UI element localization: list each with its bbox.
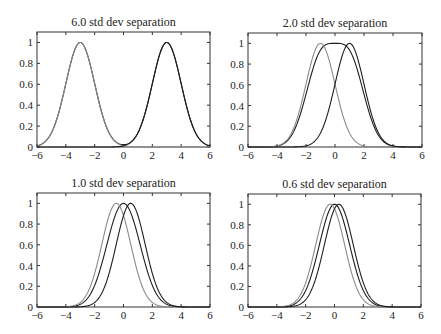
subplot-title: 2.0 std dev separation [283,16,388,30]
x-tick-label: 4 [389,309,395,321]
x-tick-label: −4 [271,309,283,321]
x-tick-label: −2 [300,149,312,161]
axes-frame [248,33,422,147]
x-tick-label: 2 [150,309,156,321]
x-tick-label: 2 [361,309,367,321]
gaussian-right-curve [248,204,421,307]
y-tick-label: 0.2 [19,120,33,132]
x-tick-label: 6 [207,309,213,321]
x-tick-label: −4 [60,309,72,321]
x-tick-label: −4 [271,149,283,161]
y-tick-label: 0.8 [19,218,33,230]
gaussian-left-curve [37,203,210,307]
axes-frame [37,32,210,147]
y-tick-label: 0.8 [19,57,33,69]
gaussian-right-curve [248,43,422,147]
subplot-1-0-separation: 1.0 std dev separation −6−4−2024600.20.4… [19,176,213,321]
y-tick-label: 0 [239,141,245,153]
x-tick-label: −4 [60,149,72,161]
y-tick-label: 0.6 [230,239,244,251]
y-tick-label: 0.6 [230,79,244,91]
y-tick-label: 1 [28,36,34,48]
x-tick-label: 4 [178,309,184,321]
subplot-2-0-separation: 2.0 std dev separation −6−4−2024600.20.4… [230,16,425,161]
y-tick-label: 1 [28,197,34,209]
x-tick-label: 6 [418,309,424,321]
y-tick-label: 0 [28,301,34,313]
normalized-sum-curve [248,204,421,307]
x-tick-label: 6 [207,149,213,161]
y-tick-label: 1 [239,37,245,49]
subplot-title: 6.0 std dev separation [71,15,176,29]
subplot-title: 0.6 std dev separation [282,177,387,191]
y-tick-label: 0.8 [230,219,244,231]
y-tick-label: 0.4 [230,260,244,272]
x-tick-label: 4 [178,149,184,161]
y-tick-label: 0.2 [230,120,244,132]
y-tick-label: 0.8 [230,58,244,70]
x-tick-label: 0 [121,309,127,321]
x-tick-label: −2 [300,309,312,321]
normalized-sum-curve [248,43,422,147]
y-tick-label: 0.4 [230,100,244,112]
subplot-title: 1.0 std dev separation [71,176,176,190]
y-tick-label: 0.4 [19,260,33,272]
x-tick-label: −2 [89,309,101,321]
subplot-0-6-separation: 0.6 std dev separation −6−4−2024600.20.4… [230,177,424,321]
y-tick-label: 0.6 [19,78,33,90]
x-tick-label: 0 [332,149,338,161]
x-tick-label: −2 [89,149,101,161]
y-tick-label: 0.2 [230,280,244,292]
y-tick-label: 0.2 [19,280,33,292]
gaussian-right-curve [37,203,210,307]
y-tick-label: 1 [239,198,245,210]
gaussian-left-curve [248,204,421,307]
y-tick-label: 0 [28,141,34,153]
x-tick-label: 0 [332,309,338,321]
x-tick-label: 2 [150,149,156,161]
normalized-sum-curve [37,203,210,307]
axes-frame [248,194,421,307]
y-tick-label: 0 [239,301,245,313]
y-tick-label: 0.6 [19,239,33,251]
x-tick-label: 2 [361,149,367,161]
subplot-6-0-separation: 6.0 std dev separation −6−4−2024600.20.4… [19,15,213,161]
x-tick-label: 4 [390,149,396,161]
x-tick-label: 6 [419,149,425,161]
figure: 6.0 std dev separation −6−4−2024600.20.4… [0,0,441,334]
axes-frame [37,193,210,307]
x-tick-label: 0 [121,149,127,161]
gaussian-left-curve [248,43,422,147]
y-tick-label: 0.4 [19,99,33,111]
